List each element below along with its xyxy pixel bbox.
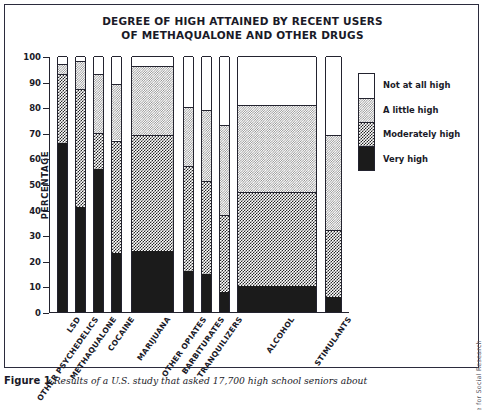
y-tick-label-80: 80	[29, 103, 41, 113]
segment-a-little-high	[202, 110, 211, 182]
segment-very-high	[132, 251, 173, 312]
legend-label-none: Not at all high	[383, 80, 450, 90]
chart-title: DEGREE OF HIGH ATTAINED BY RECENT USERS …	[5, 14, 480, 42]
figure-caption: Figure 1 Results of a U.S. study that as…	[4, 374, 479, 387]
legend-swatch-very	[359, 146, 374, 170]
segment-moderately-high	[132, 135, 173, 250]
segment-moderately-high	[184, 166, 193, 271]
segment-moderately-high	[202, 181, 211, 273]
legend-label-little: A little high	[383, 105, 438, 115]
segment-a-little-high	[326, 135, 341, 230]
segment-not-at-all-high	[326, 56, 341, 135]
segment-not-at-all-high	[238, 56, 316, 105]
bar-methaqualone[interactable]	[93, 57, 104, 313]
y-tick-label-70: 70	[29, 129, 41, 139]
segment-not-at-all-high	[94, 56, 103, 74]
bar-series-group	[49, 57, 349, 313]
x-label-stimulants: STIMULANTS	[312, 315, 353, 368]
y-tick-label-90: 90	[29, 78, 41, 88]
bar-barbiturates[interactable]	[201, 57, 212, 313]
figure-frame: DEGREE OF HIGH ATTAINED BY RECENT USERS …	[4, 4, 479, 368]
chart-title-line-1: DEGREE OF HIGH ATTAINED BY RECENT USERS	[5, 14, 480, 28]
legend-label-very: Very high	[383, 154, 428, 164]
x-axis-labels: LSDOTHER PSYCHEDELICSMETHAQUALONECOCAINE…	[49, 315, 359, 373]
bar-lsd[interactable]	[57, 57, 68, 313]
x-label-lsd: LSD	[64, 315, 81, 335]
segment-not-at-all-high	[58, 56, 67, 64]
segment-moderately-high	[76, 89, 85, 207]
segment-a-little-high	[238, 105, 316, 192]
bar-other-opiates[interactable]	[183, 57, 194, 313]
segment-moderately-high	[326, 230, 341, 297]
bar-tranquilizers[interactable]	[219, 57, 230, 313]
bar-other-psychedelics[interactable]	[75, 57, 86, 313]
y-tick-label-40: 40	[29, 206, 41, 216]
y-tick-label-10: 10	[29, 282, 41, 292]
segment-not-at-all-high	[202, 56, 211, 110]
segment-very-high	[112, 253, 121, 312]
segment-not-at-all-high	[112, 56, 121, 84]
y-tick-0	[43, 313, 49, 314]
segment-very-high	[326, 297, 341, 312]
segment-a-little-high	[76, 61, 85, 89]
segment-a-little-high	[184, 107, 193, 166]
bar-stimulants[interactable]	[325, 57, 342, 313]
legend-label-moderate: Moderately high	[383, 129, 460, 139]
segment-not-at-all-high	[76, 56, 85, 61]
y-tick-label-30: 30	[29, 231, 41, 241]
figure-caption-text: Results of a U.S. study that asked 17,70…	[54, 375, 368, 386]
segment-moderately-high	[220, 215, 229, 292]
y-tick-label-50: 50	[29, 180, 41, 190]
legend-swatch-column	[358, 73, 375, 171]
segment-very-high	[76, 207, 85, 312]
segment-very-high	[58, 143, 67, 312]
segment-very-high	[184, 271, 193, 312]
segment-not-at-all-high	[220, 56, 229, 125]
y-tick-label-0: 0	[35, 308, 41, 318]
x-label-alcohol: ALCOHOL	[265, 315, 297, 355]
segment-moderately-high	[112, 141, 121, 254]
bar-cocaine[interactable]	[111, 57, 122, 313]
figure-caption-label: Figure 1	[4, 375, 51, 386]
segment-moderately-high	[238, 192, 316, 287]
legend-swatch-little	[359, 98, 374, 122]
segment-very-high	[94, 169, 103, 312]
segment-not-at-all-high	[132, 56, 173, 66]
bar-marijuana[interactable]	[131, 57, 174, 313]
segment-a-little-high	[220, 125, 229, 215]
bar-alcohol[interactable]	[237, 57, 317, 313]
segment-very-high	[220, 292, 229, 312]
segment-not-at-all-high	[184, 56, 193, 107]
plot-area: PERCENTAGE 0102030405060708090100	[49, 57, 349, 313]
y-tick-label-100: 100	[23, 52, 41, 62]
segment-a-little-high	[94, 74, 103, 133]
legend-swatch-none	[359, 74, 374, 98]
x-label-marijuana: MARIJUANA	[135, 315, 172, 363]
chart-title-line-2: OF METHAQUALONE AND OTHER DRUGS	[5, 28, 480, 42]
segment-a-little-high	[112, 84, 121, 140]
segment-moderately-high	[94, 133, 103, 169]
segment-a-little-high	[58, 64, 67, 74]
y-tick-label-20: 20	[29, 257, 41, 267]
segment-moderately-high	[58, 74, 67, 143]
segment-very-high	[238, 286, 316, 312]
legend-swatch-moderate	[359, 122, 374, 146]
y-tick-label-60: 60	[29, 154, 41, 164]
segment-a-little-high	[132, 66, 173, 135]
segment-very-high	[202, 274, 211, 312]
figure-page: DEGREE OF HIGH ATTAINED BY RECENT USERS …	[0, 0, 489, 410]
